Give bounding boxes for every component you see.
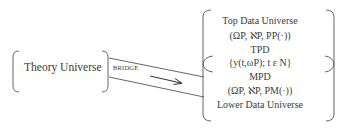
top-probability-triple: (ΩP, ℵP, PP(·)) xyxy=(205,31,315,41)
sequence-label: {y(t,ωP); t ε N} xyxy=(205,58,315,68)
top-data-universe-label: Top Data Universe xyxy=(205,16,315,26)
bridge-lower-line xyxy=(109,77,204,97)
data-universe-right-brace xyxy=(326,10,334,121)
theory-universe-label: Theory Universe xyxy=(24,62,102,74)
data-universe-right-brace-bump xyxy=(325,56,334,72)
theory-right-bracket xyxy=(102,51,108,92)
lower-probability-triple: (ΩP, ℵP, PM(·)) xyxy=(205,86,315,96)
mpd-label: MPD xyxy=(205,72,315,82)
theory-left-bracket xyxy=(13,51,19,92)
lower-data-universe-label: Lower Data Universe xyxy=(205,100,315,110)
bridge-arrow-icon xyxy=(150,76,182,85)
bridge-label: BRIDGE xyxy=(113,65,138,72)
tpd-label: TPD xyxy=(205,45,315,55)
